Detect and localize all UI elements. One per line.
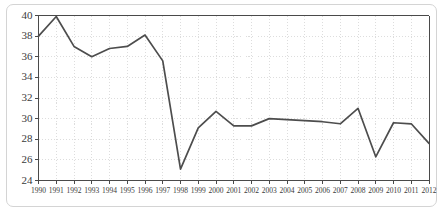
x-axis-tick-label: 1999 xyxy=(191,186,206,195)
tick-marks xyxy=(35,16,429,185)
y-axis-tick-label: 28 xyxy=(22,132,34,144)
y-axis-tick-label: 24 xyxy=(22,174,34,186)
x-axis-tick-label: 1998 xyxy=(173,186,188,195)
y-axis-tick-label: 36 xyxy=(22,50,34,62)
chart-plot-area: 242628303234363840 199019911992199319941… xyxy=(0,0,445,213)
x-axis-tick-label: 1991 xyxy=(49,186,64,195)
x-axis-tick-label: 2005 xyxy=(297,186,312,195)
y-axis-tick-labels: 242628303234363840 xyxy=(22,9,34,186)
x-axis-tick-label: 2009 xyxy=(368,186,383,195)
x-axis-tick-label: 2000 xyxy=(209,186,224,195)
x-axis-tick-label: 1993 xyxy=(84,186,99,195)
y-axis-tick-label: 34 xyxy=(22,70,34,82)
y-axis-tick-label: 38 xyxy=(22,29,34,41)
x-axis-tick-label: 2004 xyxy=(280,186,295,195)
x-axis-tick-label: 2010 xyxy=(386,186,401,195)
line-chart: 242628303234363840 199019911992199319941… xyxy=(0,0,445,213)
x-axis-tick-label: 1997 xyxy=(155,186,170,195)
x-axis-tick-label: 2003 xyxy=(262,186,277,195)
x-axis-tick-label: 1990 xyxy=(31,186,46,195)
grid-lines xyxy=(39,16,430,181)
y-axis-tick-label: 26 xyxy=(22,153,34,165)
data-line-series-1 xyxy=(39,17,430,170)
x-axis-tick-labels: 1990199119921993199419951996199719981999… xyxy=(31,186,437,195)
x-axis-tick-label: 2007 xyxy=(333,186,348,195)
x-axis-tick-label: 1992 xyxy=(67,186,82,195)
x-axis-tick-label: 2006 xyxy=(315,186,330,195)
x-axis-tick-label: 1994 xyxy=(102,186,117,195)
x-axis-tick-label: 1996 xyxy=(138,186,153,195)
data-series-group xyxy=(39,17,430,170)
x-axis-tick-label: 2008 xyxy=(351,186,366,195)
y-axis-tick-label: 30 xyxy=(22,112,34,124)
y-axis-tick-label: 40 xyxy=(22,9,34,21)
x-axis-tick-label: 2001 xyxy=(226,186,241,195)
y-axis-tick-label: 32 xyxy=(22,91,33,103)
x-axis-tick-label: 2012 xyxy=(422,186,437,195)
x-axis-tick-label: 2002 xyxy=(244,186,259,195)
x-axis-tick-label: 1995 xyxy=(120,186,135,195)
x-axis-tick-label: 2011 xyxy=(404,186,419,195)
